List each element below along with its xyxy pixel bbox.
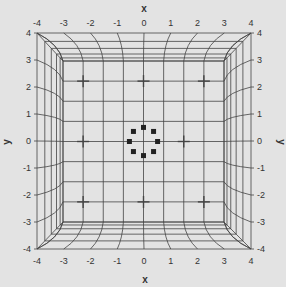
square-marker (141, 125, 146, 130)
svg-text:-4: -4 (33, 256, 41, 266)
svg-text:1: 1 (26, 109, 31, 119)
svg-text:4: 4 (248, 18, 253, 28)
svg-text:3: 3 (222, 256, 227, 266)
svg-text:4: 4 (248, 256, 253, 266)
svg-text:0: 0 (26, 136, 31, 146)
square-marker (131, 129, 136, 134)
plus-marker (77, 75, 89, 87)
svg-text:-4: -4 (33, 18, 41, 28)
svg-text:-3: -3 (60, 18, 68, 28)
svg-text:2: 2 (257, 82, 262, 92)
svg-text:3: 3 (257, 55, 262, 65)
square-marker (141, 153, 146, 158)
svg-text:-3: -3 (23, 217, 31, 227)
svg-text:-3: -3 (257, 217, 265, 227)
svg-text:-2: -2 (23, 190, 31, 200)
svg-text:3: 3 (26, 55, 31, 65)
svg-text:0: 0 (141, 18, 146, 28)
svg-text:0: 0 (257, 136, 262, 146)
svg-text:-1: -1 (257, 163, 265, 173)
perspective-grid-diagram: -4-444-3-333-2-222-1-111000011-1-122-2-2… (0, 0, 286, 287)
plus-marker (138, 75, 150, 87)
svg-text:0: 0 (141, 256, 146, 266)
svg-text:1: 1 (168, 18, 173, 28)
plus-marker (138, 196, 150, 208)
svg-text:2: 2 (26, 82, 31, 92)
square-marker (155, 139, 160, 144)
square-marker (151, 129, 156, 134)
square-marker (151, 149, 156, 154)
svg-text:4: 4 (26, 28, 31, 38)
svg-text:-4: -4 (23, 244, 31, 254)
plus-marker (198, 196, 210, 208)
x-axis-label-bottom: x (142, 274, 148, 285)
x-axis-label-top: x (141, 3, 147, 14)
plus-marker (198, 75, 210, 87)
svg-text:1: 1 (257, 109, 262, 119)
svg-text:2: 2 (195, 18, 200, 28)
svg-text:-1: -1 (113, 18, 121, 28)
svg-text:-2: -2 (257, 190, 265, 200)
plus-marker (178, 136, 190, 148)
plus-marker (77, 196, 89, 208)
y-axis-label-right: y (276, 139, 286, 145)
svg-text:3: 3 (222, 18, 227, 28)
svg-text:2: 2 (195, 256, 200, 266)
square-marker (131, 149, 136, 154)
plus-marker (77, 136, 89, 148)
svg-text:1: 1 (168, 256, 173, 266)
svg-text:-1: -1 (23, 163, 31, 173)
svg-text:-3: -3 (60, 256, 68, 266)
svg-text:-2: -2 (86, 256, 94, 266)
svg-text:4: 4 (257, 28, 262, 38)
grid-frame (34, 33, 254, 249)
y-axis-label-left: y (1, 139, 12, 145)
svg-text:-2: -2 (86, 18, 94, 28)
svg-text:-1: -1 (113, 256, 121, 266)
svg-text:-4: -4 (257, 244, 265, 254)
square-marker (127, 139, 132, 144)
